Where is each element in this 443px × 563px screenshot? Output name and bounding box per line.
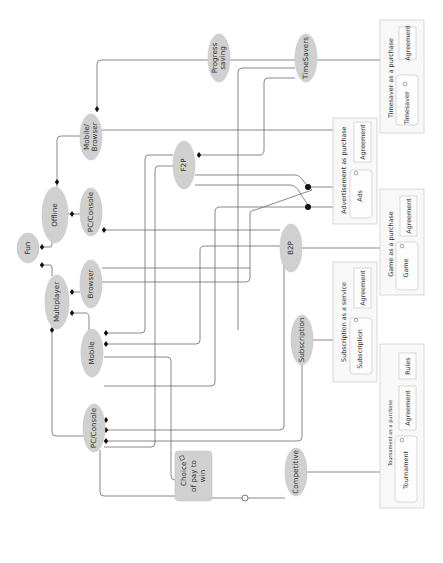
svg-text:Agreement: Agreement	[359, 270, 367, 306]
node-multiplayer[interactable]: Multiplayer	[45, 275, 69, 329]
svg-text:Competitive: Competitive	[291, 450, 300, 494]
svg-text:TimeSavers: TimeSavers	[301, 37, 310, 80]
choice-line1: Choice	[179, 461, 188, 486]
svg-text:PC/Console: PC/Console	[86, 191, 95, 232]
svg-text:Advertisement as purchase: Advertisement as purchase	[340, 126, 348, 214]
svg-text:Agreement: Agreement	[404, 390, 412, 426]
optional-indicator-icon	[400, 438, 404, 442]
svg-text:Mobile: Mobile	[87, 341, 96, 365]
svg-text:Rules: Rules	[404, 357, 412, 375]
panel-timesaver: Timesaver as a purchase Timesaver Agreem…	[380, 20, 424, 133]
svg-text:Timesaver as a purchase: Timesaver as a purchase	[387, 38, 395, 119]
node-mobile-browser[interactable]: Mobile/ Browser	[80, 114, 102, 160]
node-mobile[interactable]: Mobile	[81, 329, 103, 377]
node-pc-console-multiplayer[interactable]: PC/Console	[83, 404, 105, 452]
node-competitive[interactable]: Competitive	[285, 448, 307, 496]
svg-text:Agreement: Agreement	[405, 198, 413, 234]
progress-saving-line2: saving	[218, 46, 227, 70]
svg-text:Ads: Ads	[356, 190, 364, 202]
optional-indicator-icon	[400, 244, 404, 248]
node-choice-pay-to-win[interactable]: Choice of pay to win	[175, 451, 212, 501]
svg-text:Tournament as a purchase: Tournament as a purchase	[387, 400, 394, 467]
node-b2p[interactable]: B2P	[280, 224, 302, 272]
panel-advertisement: Advertisement as purchase Ads Agreement	[333, 118, 377, 224]
panel-game: Game as a purchase Game Agreement	[380, 189, 424, 295]
node-pc-console-offline[interactable]: PC/Console	[80, 188, 102, 236]
svg-text:Agreement: Agreement	[404, 25, 412, 61]
choice-line3: win	[198, 470, 207, 482]
svg-text:Tournament: Tournament	[402, 451, 410, 490]
optional-indicator-icon	[354, 318, 358, 322]
mobile-browser-line2: Browser	[90, 122, 99, 151]
node-timesavers[interactable]: TimeSavers	[295, 34, 317, 82]
svg-text:PC/Console: PC/Console	[89, 407, 98, 448]
optional-indicator-icon	[354, 171, 358, 175]
node-fun[interactable]: Fun	[17, 233, 39, 263]
svg-text:Subscription: Subscription	[356, 329, 364, 369]
svg-text:B2P: B2P	[286, 240, 295, 255]
svg-text:Subscription as a service: Subscription as a service	[340, 282, 348, 362]
panel-subscription: Subscription as a service Subscription A…	[333, 262, 377, 382]
svg-text:Fun: Fun	[23, 242, 32, 255]
svg-text:Subscription: Subscription	[297, 318, 306, 363]
svg-text:Multiplayer: Multiplayer	[52, 282, 61, 322]
node-f2p[interactable]: F2P	[173, 141, 195, 189]
node-browser[interactable]: Browser	[80, 260, 102, 308]
node-progress-saving[interactable]: Progress saving	[208, 34, 230, 82]
node-offline[interactable]: Offline	[42, 187, 68, 243]
svg-text:Browser: Browser	[86, 269, 95, 298]
svg-text:F2P: F2P	[179, 158, 188, 172]
panel-tournament: Tournament as a purchase Tournament Agre…	[380, 344, 424, 508]
choice-line2: of pay to	[189, 460, 198, 492]
svg-text:Game as a purchase: Game as a purchase	[387, 211, 395, 277]
svg-text:Offline: Offline	[50, 203, 59, 227]
svg-text:Agreement: Agreement	[359, 124, 367, 160]
svg-text:Game: Game	[402, 258, 410, 277]
node-subscription[interactable]: Subscription	[291, 315, 313, 365]
svg-text:Timesaver: Timesaver	[403, 91, 411, 126]
feature-model-diagram: Fun Offline Multiplayer Mobile/ Browser …	[0, 0, 443, 563]
optional-indicator-icon	[403, 82, 407, 86]
